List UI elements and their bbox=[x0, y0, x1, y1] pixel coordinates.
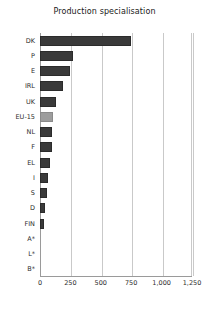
bar[interactable] bbox=[40, 203, 45, 213]
bar[interactable] bbox=[40, 219, 44, 229]
bar-row bbox=[40, 216, 192, 231]
bar-row bbox=[40, 247, 192, 262]
x-axis-tick-labels: 02505007501,0001,250 bbox=[0, 279, 209, 293]
bar-rows bbox=[40, 33, 192, 277]
x-axis-tick-label: 500 bbox=[95, 279, 107, 287]
gridline bbox=[193, 33, 194, 276]
chart-title: Production specialisation bbox=[0, 7, 209, 16]
bar-row bbox=[40, 48, 192, 63]
bar[interactable] bbox=[40, 51, 73, 61]
bar-row bbox=[40, 94, 192, 109]
bar-row bbox=[40, 155, 192, 170]
bar[interactable] bbox=[40, 188, 47, 198]
bar[interactable] bbox=[40, 81, 63, 91]
y-axis-category-labels: DKPEIRLUKEU-15NLFELISDFINA*L*B* bbox=[0, 33, 37, 277]
chart-container: Production specialisation DKPEIRLUKEU-15… bbox=[0, 0, 209, 311]
bar-row bbox=[40, 201, 192, 216]
bar-row bbox=[40, 64, 192, 79]
bar-row bbox=[40, 231, 192, 246]
y-axis-label: IRL bbox=[0, 79, 37, 94]
y-axis-label: FIN bbox=[0, 216, 37, 231]
bar-row bbox=[40, 140, 192, 155]
x-axis-tick-label: 1,250 bbox=[183, 279, 202, 287]
y-axis-label: L* bbox=[0, 247, 37, 262]
y-axis-label: F bbox=[0, 140, 37, 155]
bar-row bbox=[40, 109, 192, 124]
y-axis-label: D bbox=[0, 201, 37, 216]
bar[interactable] bbox=[40, 158, 50, 168]
x-axis-tick-label: 250 bbox=[64, 279, 76, 287]
y-axis-label: E bbox=[0, 64, 37, 79]
y-axis-label: EL bbox=[0, 155, 37, 170]
y-axis-label: DK bbox=[0, 33, 37, 48]
bar[interactable] bbox=[40, 66, 70, 76]
bar[interactable] bbox=[40, 36, 131, 46]
bar-row bbox=[40, 186, 192, 201]
bar[interactable] bbox=[40, 173, 48, 183]
bar[interactable] bbox=[40, 127, 52, 137]
y-axis-label: I bbox=[0, 170, 37, 185]
bar-row bbox=[40, 79, 192, 94]
y-axis-label: A* bbox=[0, 231, 37, 246]
x-axis-tick-label: 0 bbox=[38, 279, 42, 287]
x-axis-tick-label: 750 bbox=[125, 279, 137, 287]
y-axis-label: B* bbox=[0, 262, 37, 277]
bar[interactable] bbox=[40, 97, 56, 107]
bar-row bbox=[40, 125, 192, 140]
bar[interactable] bbox=[40, 142, 52, 152]
bar-row bbox=[40, 170, 192, 185]
y-axis-label: P bbox=[0, 48, 37, 63]
y-axis-label: UK bbox=[0, 94, 37, 109]
bar-row bbox=[40, 33, 192, 48]
bar[interactable] bbox=[40, 112, 53, 122]
y-axis-label: EU-15 bbox=[0, 109, 37, 124]
y-axis-label: S bbox=[0, 186, 37, 201]
x-axis-tick-label: 1,000 bbox=[152, 279, 171, 287]
bar-row bbox=[40, 262, 192, 277]
y-axis-label: NL bbox=[0, 125, 37, 140]
